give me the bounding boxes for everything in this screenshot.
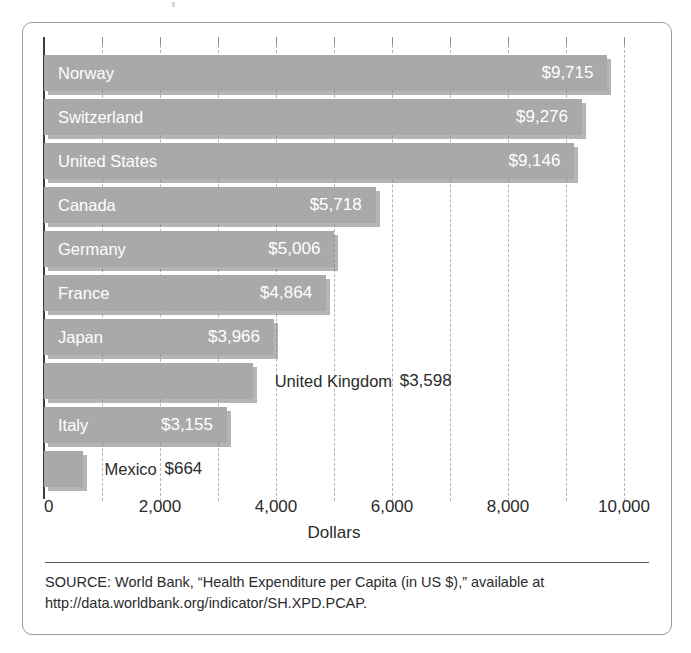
source-note: SOURCE: World Bank, “Health Expenditure …: [45, 572, 649, 614]
bar-row: Italy$3,155: [44, 407, 624, 443]
scan-artifact: [172, 2, 175, 7]
x-tick-label: 0: [44, 497, 53, 517]
x-tick-label: 4,000: [255, 497, 298, 517]
x-tick-label: 10,000: [598, 497, 650, 517]
bar-row: Germany$5,006: [44, 231, 624, 267]
bar-category-label: United Kingdom: [275, 363, 392, 399]
bar: [44, 451, 83, 487]
tick-mark: [102, 37, 103, 45]
figure-frame: Norway$9,715Switzerland$9,276United Stat…: [22, 22, 672, 635]
bar-row: France$4,864: [44, 275, 624, 311]
bar-category-label: Switzerland: [58, 99, 143, 135]
bar-category-label: France: [58, 275, 109, 311]
tick-mark: [566, 37, 567, 45]
tick-mark: [508, 37, 509, 45]
bar-row: United States$9,146: [44, 143, 624, 179]
tick-mark: [218, 37, 219, 45]
tick-mark: [334, 37, 335, 45]
bar-category-label: Italy: [58, 407, 88, 443]
bar-row: Canada$5,718: [44, 187, 624, 223]
bar-value-label: $9,276: [516, 99, 568, 135]
tick-mark: [160, 37, 161, 45]
bar-category-label: Norway: [58, 55, 114, 91]
bar-value-label: $3,155: [161, 407, 213, 443]
bar: [44, 363, 253, 399]
x-tick-label: 8,000: [487, 497, 530, 517]
bar-category-label: Mexico: [105, 451, 157, 487]
bar-value-label: $3,966: [208, 319, 260, 355]
tick-mark: [624, 37, 625, 45]
bar-plot: Norway$9,715Switzerland$9,276United Stat…: [44, 53, 624, 493]
x-tick-label: 2,000: [139, 497, 182, 517]
bar: [44, 55, 607, 91]
bar-value-label: $5,718: [310, 187, 362, 223]
bar-value-label: $4,864: [260, 275, 312, 311]
bar-value-label: $5,006: [268, 231, 320, 267]
chart-plot-area: Norway$9,715Switzerland$9,276United Stat…: [44, 53, 624, 513]
bar-row: Japan$3,966: [44, 319, 624, 355]
x-tick-label: 6,000: [371, 497, 414, 517]
bar-row: Switzerland$9,276: [44, 99, 624, 135]
source-divider: [45, 562, 649, 563]
tick-mark: [450, 37, 451, 45]
x-axis-title: Dollars: [44, 523, 624, 543]
source-block: SOURCE: World Bank, “Health Expenditure …: [45, 562, 649, 614]
bar-row: Mexico$664: [44, 451, 624, 487]
bar-value-label: $9,146: [508, 143, 560, 179]
bar-category-label: Japan: [58, 319, 103, 355]
bar-category-label: Germany: [58, 231, 126, 267]
tick-mark: [392, 37, 393, 45]
bar-row: Norway$9,715: [44, 55, 624, 91]
tick-mark: [276, 37, 277, 45]
x-axis-tick-labels: 02,0004,0006,0008,00010,000: [44, 497, 624, 521]
bar-row: United Kingdom$3,598: [44, 363, 624, 399]
bar-category-label: Canada: [58, 187, 116, 223]
bar-value-label: $9,715: [541, 55, 593, 91]
gridline: [624, 45, 625, 501]
bar-category-label: United States: [58, 143, 157, 179]
bar-value-label: $3,598: [400, 363, 452, 399]
bar-value-label: $664: [165, 451, 203, 487]
